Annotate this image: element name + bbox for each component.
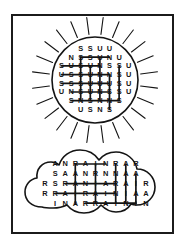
cloud-letter: N	[61, 200, 70, 207]
cloud-letter: I	[91, 160, 100, 167]
sun-letter: S	[67, 71, 76, 78]
sun-letter: N	[67, 88, 76, 95]
cloud-letter: A	[142, 190, 151, 197]
cloud-letter: N	[111, 170, 120, 177]
sun-ray	[57, 30, 67, 43]
cloud-letter: N	[61, 160, 70, 167]
sun-letter: N	[76, 97, 85, 104]
sun-ray	[101, 126, 103, 143]
cloud-letter: I	[121, 190, 130, 197]
sun-letter: N	[95, 88, 104, 95]
sun-ray	[45, 108, 58, 118]
sun-letter: U	[95, 45, 104, 52]
sun-ray	[33, 86, 50, 88]
sun-letter: U	[57, 71, 66, 78]
sun-letter: U	[115, 54, 124, 61]
sun-letter: S	[105, 88, 114, 95]
sun-letter: N	[95, 106, 104, 113]
cloud-letter: N	[101, 170, 110, 177]
sun-letter: N	[95, 97, 104, 104]
cloud-letter: R	[41, 190, 50, 197]
cloud-letter: A	[101, 200, 110, 207]
cloud-letter: R	[71, 160, 80, 167]
cloud-letter: N	[81, 170, 90, 177]
cloud-letter: I	[131, 200, 140, 207]
cloud-letter: R	[81, 190, 90, 197]
sun-ray	[123, 116, 133, 129]
cloud-letter: S	[51, 170, 60, 177]
cloud-letter: A	[121, 180, 130, 187]
puzzle-artwork	[0, 0, 185, 248]
sun-letter: U	[124, 80, 133, 87]
sun-letter: N	[105, 71, 114, 78]
sun-letter: N	[95, 71, 104, 78]
cloud-letter: A	[51, 160, 60, 167]
sun-letter: U	[67, 62, 76, 69]
sun-letter: S	[76, 45, 85, 52]
sun-ray	[37, 56, 53, 62]
sun-letter: U	[95, 80, 104, 87]
cloud-letter: R	[111, 160, 120, 167]
sun-ray	[113, 122, 120, 138]
sun-letter: S	[115, 88, 124, 95]
sun-ray	[113, 22, 119, 38]
sun-letter: S	[115, 62, 124, 69]
sun-letter: S	[105, 106, 114, 113]
sun-letter: N	[67, 54, 76, 61]
sun-letter: S	[76, 62, 85, 69]
cloud-letter: A	[81, 160, 90, 167]
cloud-letter: A	[71, 170, 80, 177]
sun-letter: U	[86, 62, 95, 69]
cloud-letter: A	[101, 180, 110, 187]
cloud-letter: A	[91, 190, 100, 197]
sun-ray	[141, 86, 158, 88]
cloud-letter: A	[131, 170, 140, 177]
sun-ray	[132, 108, 146, 118]
cloud-letter: R	[131, 160, 140, 167]
sun-letter: S	[76, 80, 85, 87]
cloud-letter: R	[51, 190, 60, 197]
sun-letter: S	[86, 45, 95, 52]
cloud-letter: R	[142, 180, 151, 187]
cloud-letter: R	[61, 180, 70, 187]
sun-letter: U	[76, 106, 85, 113]
cloud-letter: R	[91, 170, 100, 177]
sun-letter: S	[76, 71, 85, 78]
sun-letter: S	[57, 62, 66, 69]
sun-letter: U	[86, 88, 95, 95]
sun-ray	[141, 72, 158, 74]
cloud-letter: N	[111, 190, 120, 197]
cloud-letter: I	[101, 190, 110, 197]
sun-letter: S	[76, 88, 85, 95]
cloud-letter: R	[81, 200, 90, 207]
cloud-letter: I	[111, 200, 120, 207]
sun-letter: S	[86, 54, 95, 61]
sun-letter: S	[105, 62, 114, 69]
sun-letter: S	[67, 97, 76, 104]
sun-letter: N	[105, 97, 114, 104]
sun-letter: U	[105, 45, 114, 52]
sun-ray	[37, 98, 53, 105]
sun-letter: U	[86, 80, 95, 87]
cloud-letter: R	[41, 180, 50, 187]
cloud-letter: R	[91, 200, 100, 207]
sun-letter: S	[57, 80, 66, 87]
sun-ray	[123, 30, 133, 44]
sun-letter: U	[124, 71, 133, 78]
cloud-letter: N	[121, 200, 130, 207]
sun-ray	[71, 123, 77, 139]
cloud-letter: A	[71, 180, 80, 187]
puzzle-page: SSUUNSSUNUSUSUNSSUUSSUNNSUSSSUUUSUUNSUNS…	[0, 0, 185, 248]
sun-ray	[45, 42, 59, 52]
cloud-letter: A	[131, 190, 140, 197]
sun-ray	[131, 42, 144, 52]
cloud-letter: R	[111, 180, 120, 187]
cloud-letter: I	[91, 180, 100, 187]
sun-letter: U	[124, 88, 133, 95]
sun-ray	[87, 126, 89, 143]
sun-letter: U	[124, 62, 133, 69]
sun-ray	[87, 18, 89, 35]
cloud-letter: I	[131, 180, 140, 187]
sun-letter: N	[95, 62, 104, 69]
cloud-letter: S	[51, 180, 60, 187]
